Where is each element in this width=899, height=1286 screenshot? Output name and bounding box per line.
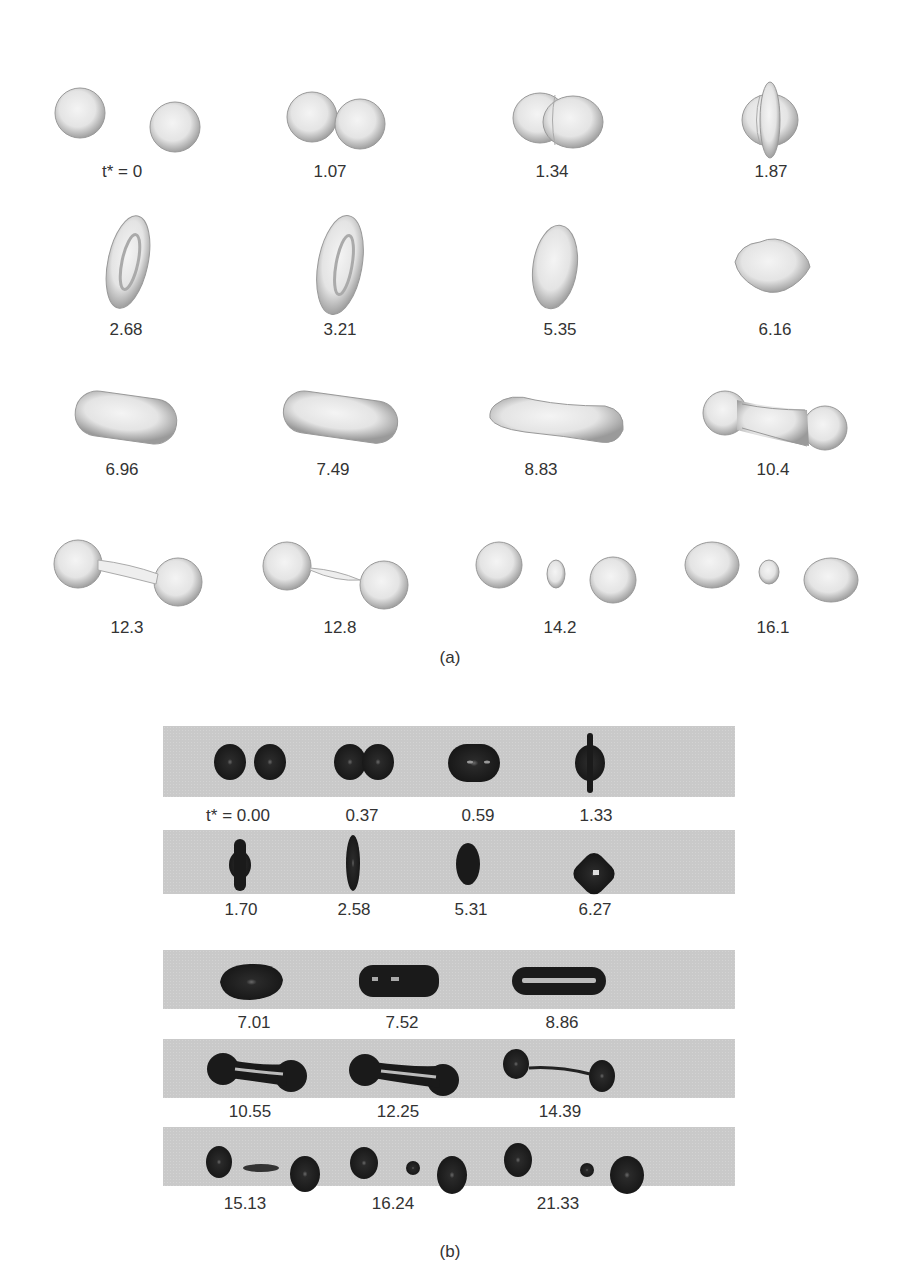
- frame-b-6-image: [340, 834, 366, 892]
- frame-b-17-time: 21.33: [537, 1194, 580, 1214]
- frame-b-14-time: 14.39: [539, 1102, 582, 1122]
- frame-a-11-time: 8.83: [524, 460, 557, 480]
- frame-a-13-image: [50, 540, 210, 610]
- frame-a-2-image: [285, 85, 395, 155]
- frame-a-6-time: 3.21: [323, 320, 356, 340]
- frame-a-9-image: [72, 390, 182, 445]
- frame-a-16-image: [684, 540, 864, 610]
- frame-b-14-image: [502, 1048, 617, 1093]
- frame-b-6-time: 2.58: [337, 900, 370, 920]
- frame-a-5-time: 2.68: [109, 320, 142, 340]
- panel-a-label: (a): [440, 648, 461, 668]
- frame-a-15-time: 14.2: [543, 618, 576, 638]
- frame-b-9-image: [215, 960, 290, 1002]
- frame-a-1-time: t* = 0: [102, 162, 142, 182]
- frame-b-12-image: [205, 1052, 310, 1094]
- frame-a-8-image: [730, 232, 815, 302]
- frame-a-16-time: 16.1: [756, 618, 789, 638]
- frame-a-14-image: [262, 540, 422, 612]
- frame-b-15-time: 15.13: [224, 1194, 267, 1214]
- frame-a-4-image: [735, 80, 805, 160]
- frame-b-7-time: 5.31: [454, 900, 487, 920]
- frame-a-4-time: 1.87: [754, 162, 787, 182]
- frame-b-8-image: [567, 850, 622, 898]
- frame-b-5-image: [225, 837, 255, 892]
- frame-a-9-time: 6.96: [105, 460, 138, 480]
- frame-a-12-time: 10.4: [756, 460, 789, 480]
- panel-b-label: (b): [440, 1242, 461, 1262]
- frame-b-3-time: 0.59: [461, 806, 494, 826]
- frame-a-10-image: [280, 390, 400, 445]
- frame-b-10-time: 7.52: [385, 1013, 418, 1033]
- frame-a-13-time: 12.3: [110, 618, 143, 638]
- frame-a-3-time: 1.34: [535, 162, 568, 182]
- frame-b-3-image: [445, 742, 525, 784]
- frame-b-16-time: 16.24: [372, 1194, 415, 1214]
- frame-b-13-time: 12.25: [377, 1102, 420, 1122]
- frame-b-9-time: 7.01: [237, 1013, 270, 1033]
- frame-a-7-image: [530, 222, 580, 312]
- frame-a-8-time: 6.16: [758, 320, 791, 340]
- frame-a-7-time: 5.35: [543, 320, 576, 340]
- frame-a-1-image: [50, 85, 210, 155]
- frame-a-11-image: [485, 390, 630, 450]
- frame-a-15-image: [475, 540, 640, 610]
- frame-b-11-time: 8.86: [545, 1013, 578, 1033]
- frame-b-8-time: 6.27: [578, 900, 611, 920]
- frame-b-2-time: 0.37: [345, 806, 378, 826]
- frame-b-10-image: [357, 963, 442, 999]
- frame-a-2-time: 1.07: [313, 162, 346, 182]
- frame-b-7-image: [453, 842, 483, 887]
- frame-b-4-image: [570, 730, 610, 795]
- frame-b-11-image: [510, 965, 610, 997]
- frame-a-3-image: [510, 85, 610, 155]
- frame-b-1-image: [210, 740, 290, 785]
- frame-b-2-image: [328, 740, 403, 785]
- frame-a-14-time: 12.8: [323, 618, 356, 638]
- frame-b-17-image: [502, 1143, 632, 1193]
- frame-b-12-time: 10.55: [229, 1102, 272, 1122]
- frame-b-4-time: 1.33: [579, 806, 612, 826]
- frame-b-15-image: [205, 1146, 325, 1191]
- frame-b-16-image: [348, 1146, 468, 1196]
- frame-b-1-time: t* = 0.00: [206, 806, 270, 826]
- frame-b-5-time: 1.70: [224, 900, 257, 920]
- frame-a-12-image: [697, 388, 852, 453]
- frame-a-6-image: [312, 210, 372, 320]
- frame-a-10-time: 7.49: [316, 460, 349, 480]
- frame-a-5-image: [100, 210, 160, 315]
- frame-b-13-image: [348, 1052, 463, 1097]
